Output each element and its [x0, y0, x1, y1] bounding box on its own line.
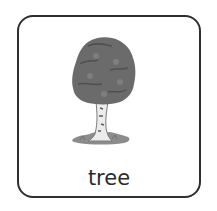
card-label: tree: [17, 166, 201, 190]
